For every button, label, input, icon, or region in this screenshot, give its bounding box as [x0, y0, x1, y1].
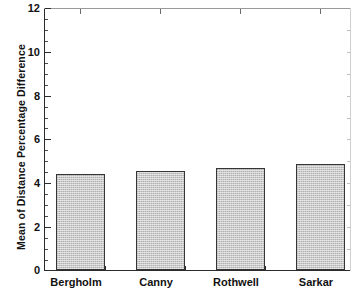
x-axis-tick [105, 266, 106, 270]
plot-area [44, 8, 351, 271]
y-major-tick [45, 270, 51, 271]
top-category-tick [160, 9, 161, 14]
bar-canny [136, 171, 185, 270]
y-tick-label: 6 [12, 134, 40, 145]
y-minor-tick [45, 41, 48, 42]
top-category-tick [80, 9, 81, 14]
y-minor-tick [45, 63, 48, 64]
x-tick-label-sarkar: Sarkar [275, 276, 356, 288]
y-minor-tick [45, 74, 48, 75]
right-minor-tick [347, 205, 350, 206]
y-major-tick [45, 52, 51, 53]
right-minor-tick [347, 96, 350, 97]
y-minor-tick [45, 107, 48, 108]
y-tick-label: 12 [12, 3, 40, 14]
right-minor-tick [347, 139, 350, 140]
y-minor-tick [45, 118, 48, 119]
y-major-tick [45, 183, 51, 184]
y-tick-label: 10 [12, 47, 40, 58]
bar-sarkar [296, 164, 345, 270]
x-tick-label-rothwell: Rothwell [191, 276, 281, 288]
y-major-tick [45, 227, 51, 228]
right-frame-line [350, 8, 351, 271]
y-minor-tick [45, 19, 48, 20]
bar-chart-figure: Mean of Distance Percentage Difference 1… [0, 0, 356, 301]
top-category-tick [320, 9, 321, 14]
right-minor-tick [347, 183, 350, 184]
y-minor-tick [45, 249, 48, 250]
top-category-tick [240, 9, 241, 14]
y-major-tick [45, 8, 51, 9]
y-minor-tick [45, 216, 48, 217]
right-minor-tick [347, 118, 350, 119]
right-minor-tick [347, 249, 350, 250]
y-minor-tick [45, 161, 48, 162]
y-major-tick [45, 139, 51, 140]
y-minor-tick [45, 30, 48, 31]
x-tick-label-bergholm: Bergholm [31, 276, 121, 288]
x-axis-tick [185, 266, 186, 270]
right-minor-tick [347, 161, 350, 162]
right-minor-tick [347, 227, 350, 228]
y-minor-tick [45, 194, 48, 195]
y-tick-label: 8 [12, 91, 40, 102]
y-minor-tick [45, 172, 48, 173]
x-axis-line [44, 270, 351, 271]
bar-bergholm [56, 174, 105, 270]
y-minor-tick [45, 85, 48, 86]
y-major-tick [45, 96, 51, 97]
y-minor-tick [45, 238, 48, 239]
y-minor-tick [45, 128, 48, 129]
right-minor-tick [347, 52, 350, 53]
right-minor-tick [347, 30, 350, 31]
right-minor-tick [347, 74, 350, 75]
y-minor-tick [45, 260, 48, 261]
x-tick-label-canny: Canny [115, 276, 197, 288]
x-axis-tick [265, 266, 266, 270]
top-frame-line [44, 8, 351, 9]
bar-rothwell [216, 168, 265, 270]
y-tick-label: 4 [12, 178, 40, 189]
y-minor-tick [45, 205, 48, 206]
y-tick-label: 0 [12, 265, 40, 276]
y-minor-tick [45, 150, 48, 151]
y-tick-label: 2 [12, 222, 40, 233]
